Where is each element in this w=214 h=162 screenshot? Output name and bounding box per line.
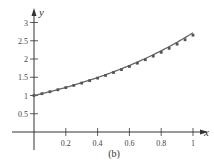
data-point-marker	[88, 79, 91, 82]
data-point-marker	[128, 65, 131, 68]
chart: 0.20.40.60.810.511.522.53 x y (b)	[0, 0, 214, 162]
data-point-marker	[112, 71, 115, 74]
data-point-marker	[152, 55, 155, 58]
data-point-marker	[49, 90, 52, 93]
y-tick-label: 1	[24, 92, 28, 101]
data-point-marker	[80, 82, 83, 85]
figure-caption: (b)	[108, 148, 120, 160]
y-axis-arrow-icon	[32, 8, 37, 16]
y-tick-label: 2	[24, 55, 28, 64]
data-point-marker	[33, 94, 36, 97]
data-point-marker	[160, 51, 163, 54]
exact-curve	[34, 33, 193, 96]
data-point-marker	[184, 38, 187, 41]
approximation-markers	[33, 34, 195, 97]
ticks: 0.20.40.60.810.511.522.53	[18, 19, 195, 149]
y-tick-label: 1.5	[18, 73, 28, 82]
data-point-marker	[104, 74, 107, 77]
x-tick-label: 0.2	[61, 139, 71, 148]
data-point-marker	[192, 34, 195, 37]
x-tick-label: 0.8	[156, 139, 166, 148]
data-point-marker	[136, 62, 139, 65]
x-tick-label: 0.4	[93, 139, 103, 148]
data-point-marker	[56, 88, 59, 91]
x-axis-label: x	[203, 126, 209, 138]
data-point-marker	[64, 86, 67, 89]
data-point-marker	[96, 77, 99, 80]
y-tick-label: 2.5	[18, 37, 28, 46]
axes	[12, 8, 208, 150]
x-tick-label: 0.6	[124, 139, 134, 148]
x-tick-label: 1	[191, 139, 195, 148]
data-point-marker	[168, 47, 171, 50]
y-tick-label: 3	[24, 19, 28, 28]
y-tick-label: 0.5	[18, 110, 28, 119]
y-axis-label: y	[38, 6, 44, 18]
data-point-marker	[176, 43, 179, 46]
data-point-marker	[120, 68, 123, 71]
data-point-marker	[144, 58, 147, 61]
data-point-marker	[72, 84, 75, 87]
data-point-marker	[41, 92, 44, 95]
